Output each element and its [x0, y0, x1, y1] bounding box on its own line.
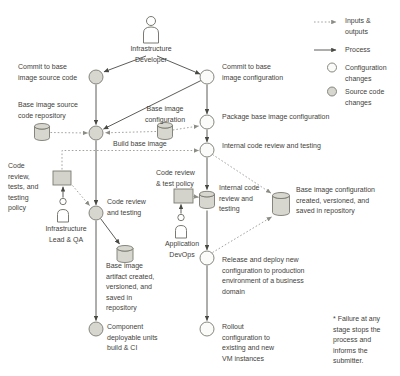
testing-policy-document-icon	[53, 171, 71, 185]
node-internal-code-review	[200, 143, 214, 157]
dotted-arrow-config-artifact-to-build	[106, 132, 157, 133]
legend-config-circle-icon	[328, 63, 337, 72]
input-output-connectors	[51, 126, 272, 253]
artifact-repo-database-icon	[117, 246, 133, 263]
node-commit-source-code	[89, 70, 103, 84]
node-rollout-configuration	[200, 322, 214, 336]
arrow-commit-config-to-build	[104, 81, 202, 130]
application-devops-person-icon	[176, 214, 187, 238]
node-component-build-ci	[89, 322, 103, 336]
legend-source-circle-icon	[328, 87, 337, 96]
diagram-graphics	[0, 0, 400, 376]
dotted-arrow-testing-policy-to-code-review	[73, 186, 90, 206]
node-package-configuration	[200, 115, 214, 129]
process-arrows	[63, 56, 207, 321]
person-head	[178, 214, 184, 220]
node-release-deploy	[200, 251, 214, 265]
legend-symbols	[314, 22, 337, 96]
dotted-arrow-internal-review-to-config-repo	[213, 155, 271, 194]
person-body	[176, 226, 187, 239]
infrastructure-developer-person-icon	[144, 17, 159, 44]
test-policy-document-icon	[174, 189, 193, 203]
arrow-code-review-to-artifact-repo	[101, 219, 120, 245]
config-artifact-database-icon	[158, 123, 173, 140]
node-build-base-image	[89, 126, 103, 140]
node-code-review-testing	[89, 206, 103, 220]
person-body	[144, 27, 159, 43]
arrow-developer-to-commit-config	[157, 56, 200, 74]
dotted-arrow-config-artifact-to-package	[173, 126, 199, 130]
arrow-developer-to-commit-source	[104, 56, 146, 72]
person-head	[60, 198, 66, 204]
dotted-arrow-test-policy-to-internal-review-cylinder	[194, 197, 199, 198]
infrastructure-lead-person-icon	[58, 198, 69, 222]
devops-workflow-diagram: Infrastructure Developer Commit to base …	[0, 0, 400, 376]
source-repo-database-icon	[35, 124, 50, 141]
dotted-arrow-testing-policy-to-internal-review	[62, 151, 199, 170]
person-head	[147, 17, 156, 26]
dotted-arrow-source-repo-to-build	[51, 133, 88, 134]
dotted-arrow-release-to-config-repo	[213, 217, 272, 253]
node-commit-configuration	[200, 70, 214, 84]
person-body	[58, 210, 69, 223]
internal-review-database-icon	[200, 191, 215, 208]
config-repo-database-icon	[273, 193, 290, 216]
